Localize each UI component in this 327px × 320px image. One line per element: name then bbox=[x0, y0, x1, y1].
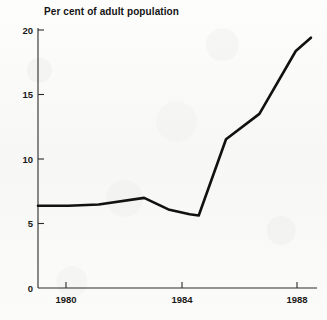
y-tick-label-0: 0 bbox=[28, 283, 33, 294]
chart-figure: Per cent of adult population 20 15 10 5 … bbox=[0, 0, 327, 320]
x-tick-label-1988: 1988 bbox=[286, 294, 307, 305]
y-tick-label-20: 20 bbox=[22, 25, 33, 36]
plot-area: 20 15 10 5 0 1980 1984 1988 bbox=[0, 0, 327, 320]
y-tick-label-15: 15 bbox=[22, 89, 33, 100]
x-tick-label-1980: 1980 bbox=[55, 294, 76, 305]
x-tick-label-1984: 1984 bbox=[171, 294, 193, 305]
data-series-line bbox=[38, 38, 311, 216]
y-tick-label-10: 10 bbox=[22, 154, 33, 165]
y-tick-label-5: 5 bbox=[28, 218, 34, 229]
